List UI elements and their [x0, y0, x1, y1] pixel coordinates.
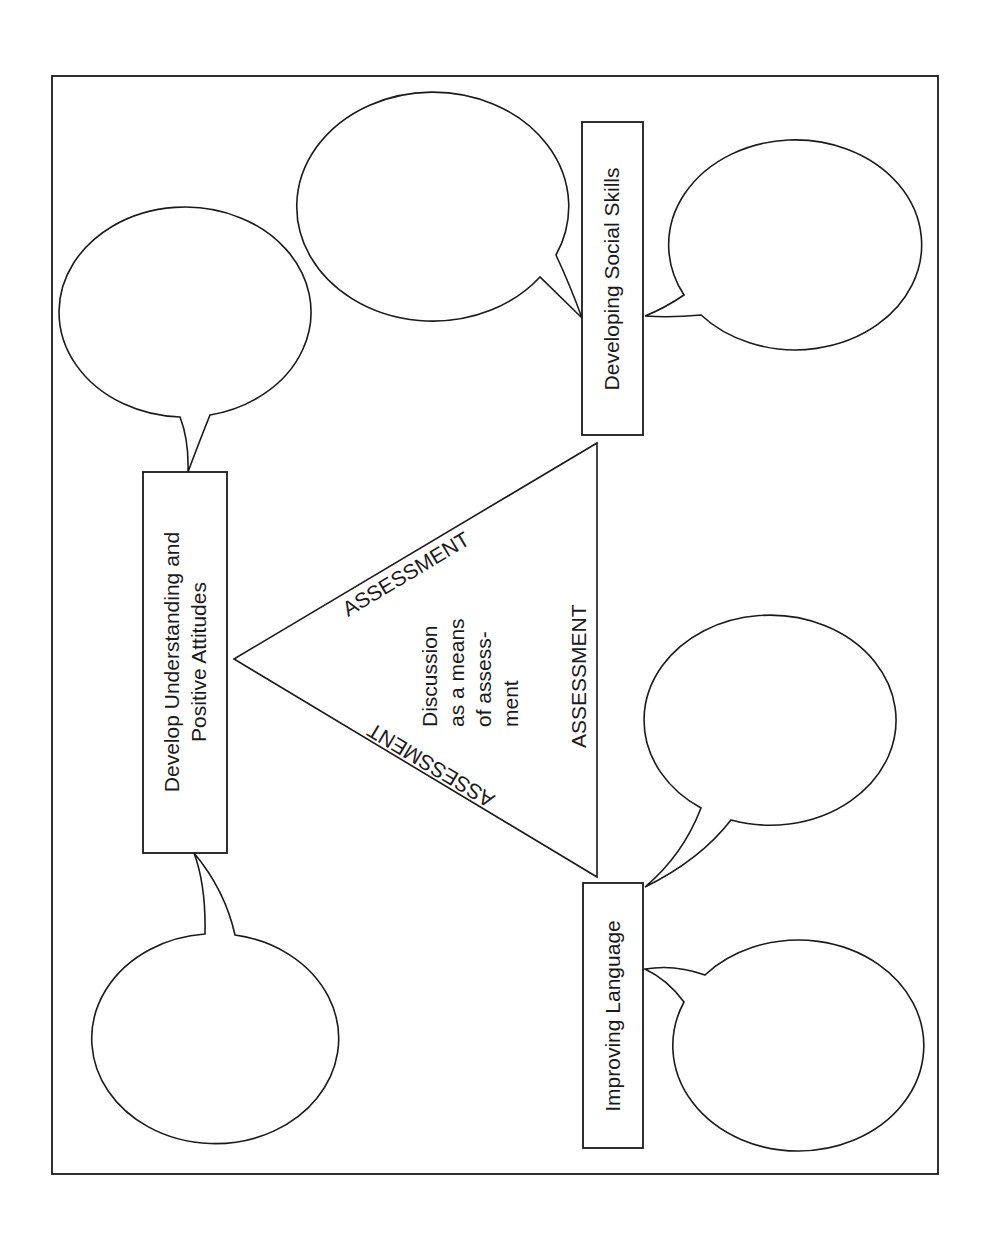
edge-label-right: ASSESSMENT: [567, 604, 590, 748]
box-developing-social-skills: Developing Social Skills: [582, 122, 643, 435]
box-develop-understanding-line-1: Develop Understanding and: [160, 532, 183, 792]
center-text: Discussion as a means of assess- ment: [418, 618, 522, 727]
box-develop-understanding-line-2: Positive Attitudes: [187, 582, 210, 742]
speech-bubble-understanding-bottom[interactable]: [92, 853, 339, 1144]
box-improving-language-label: Improving Language: [601, 920, 624, 1111]
edge-label-lower: ASSESSMENT: [363, 719, 498, 813]
speech-bubble-language-lower[interactable]: [645, 940, 924, 1151]
center-text-line-3: of assess-: [472, 631, 495, 727]
center-text-line-4: ment: [499, 680, 522, 727]
box-develop-understanding: Develop Understanding and Positive Attit…: [143, 472, 227, 853]
edge-label-upper: ASSESSMENT: [338, 527, 473, 620]
center-text-line-2: as a means: [445, 618, 468, 727]
speech-bubble-social-right[interactable]: [645, 140, 922, 350]
box-developing-social-skills-label: Developing Social Skills: [600, 168, 623, 391]
box-improving-language: Improving Language: [583, 883, 643, 1148]
diagram-canvas: Develop Understanding and Positive Attit…: [0, 0, 989, 1235]
assessment-triangle: [234, 443, 597, 877]
speech-bubble-social-left[interactable]: [297, 92, 582, 321]
center-text-line-1: Discussion: [418, 625, 441, 727]
speech-bubble-language-upper[interactable]: [644, 615, 896, 887]
speech-bubble-understanding-top[interactable]: [59, 207, 311, 472]
